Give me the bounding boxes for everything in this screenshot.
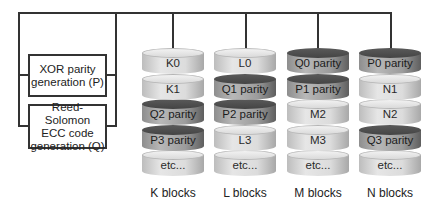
disk-block: P0 parity: [359, 48, 421, 74]
disk-block-label: Q2 parity: [142, 108, 204, 120]
disk-block-label: M3: [287, 134, 349, 146]
disk-block: K1: [142, 74, 204, 100]
disk-block-label: P1 parity: [287, 83, 349, 95]
stack-caption: K blocks: [133, 186, 213, 200]
disk-block: P2 parity: [214, 99, 276, 125]
disk-block-label: etc...: [359, 159, 421, 171]
disk-block-label: Q0 parity: [287, 57, 349, 69]
disk-block-label: etc...: [287, 159, 349, 171]
disk-block: M3: [287, 125, 349, 151]
disk-block-label: L3: [214, 134, 276, 146]
disk-block-label: L0: [214, 57, 276, 69]
disk-block-label: K0: [142, 57, 204, 69]
disk-block: Q3 parity: [359, 125, 421, 151]
disk-block-label: P2 parity: [214, 108, 276, 120]
stack-caption: N blocks: [350, 186, 430, 200]
disk-block-label: M2: [287, 108, 349, 120]
disk-block-label: Q1 parity: [214, 83, 276, 95]
xor-parity-generator-box: XOR parity generation (P): [28, 54, 107, 97]
disk-block: K0: [142, 48, 204, 74]
disk-block: P3 parity: [142, 125, 204, 151]
disk-block-label: K1: [142, 83, 204, 95]
disk-block-label: etc...: [142, 159, 204, 171]
stack-caption: M blocks: [278, 186, 358, 200]
bus-left-line: [18, 12, 20, 127]
reed-solomon-generator-box: Reed-Solomon ECC code generation (Q): [28, 104, 107, 149]
bus-right-stub-rs: [106, 125, 116, 127]
disk-block: Q1 parity: [214, 74, 276, 100]
disk-block-label: Q3 parity: [359, 134, 421, 146]
disk-block: L0: [214, 48, 276, 74]
bus-right-line: [115, 12, 117, 127]
disk-block: etc...: [142, 150, 204, 176]
disk-block: etc...: [359, 150, 421, 176]
bus-left-stub-xor: [18, 74, 28, 76]
disk-block: Q0 parity: [287, 48, 349, 74]
disk-block-label: N2: [359, 108, 421, 120]
disk-block: N1: [359, 74, 421, 100]
disk-block-label: P3 parity: [142, 134, 204, 146]
disk-block-label: N1: [359, 83, 421, 95]
disk-block: N2: [359, 99, 421, 125]
disk-block: etc...: [287, 150, 349, 176]
stack-caption: L blocks: [205, 186, 285, 200]
disk-block: P1 parity: [287, 74, 349, 100]
disk-block: etc...: [214, 150, 276, 176]
disk-block-label: P0 parity: [359, 57, 421, 69]
bus-top-line: [18, 12, 392, 14]
disk-block: L3: [214, 125, 276, 151]
bus-right-stub-xor: [106, 74, 116, 76]
disk-block-label: etc...: [214, 159, 276, 171]
bus-left-stub-rs: [18, 125, 28, 127]
disk-block: Q2 parity: [142, 99, 204, 125]
disk-block: M2: [287, 99, 349, 125]
